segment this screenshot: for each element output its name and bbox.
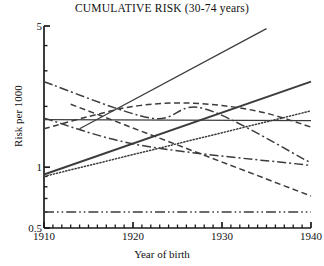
x-tick-label: 1930 [211, 230, 233, 242]
chart-series-line [44, 82, 311, 175]
chart-series-line [44, 120, 311, 121]
x-tick-label: 1940 [300, 230, 322, 242]
chart-figure: CUMULATIVE RISK (30-74 years) Risk per 1… [0, 0, 324, 266]
chart-series-line [71, 104, 311, 196]
chart-series-line [44, 103, 311, 129]
x-tick-label: 1920 [122, 230, 144, 242]
x-tick-label: 1910 [33, 230, 55, 242]
chart-series-line [80, 29, 267, 129]
chart-series-line [44, 118, 311, 165]
chart-plot-area [0, 0, 324, 266]
